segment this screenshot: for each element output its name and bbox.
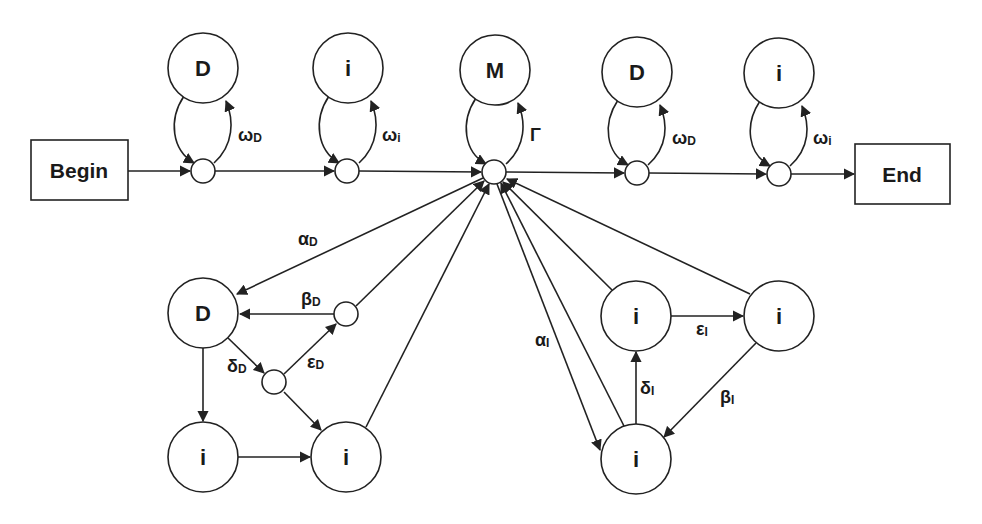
loop-label-i1: ωi (382, 125, 401, 145)
edge-label-delta-D: δD (227, 356, 247, 376)
loop-i1-up (359, 101, 376, 163)
loop-label-D1: ωD (238, 125, 262, 145)
edge-label-epsilon-I: εI (696, 319, 708, 339)
loop-i2-down (750, 101, 770, 166)
state-D2-label: D (629, 60, 645, 85)
edge-Ia-to-jM (503, 182, 612, 290)
edge-label-alpha-I: αI (535, 330, 549, 350)
state-i2-label: i (776, 61, 782, 86)
loop-i1-down (319, 96, 339, 163)
loop-D2-down (608, 100, 628, 165)
begin-label: Begin (50, 159, 108, 182)
junction-1 (191, 159, 215, 183)
loop-label-i2: ωi (813, 128, 832, 148)
edge-jbeta-to-jM (356, 181, 484, 306)
loop-M-up (506, 103, 523, 164)
edge-j2-to-jM (359, 171, 481, 172)
junction-2 (335, 159, 359, 183)
junction-delta (262, 370, 286, 394)
loop-D2-up (648, 105, 665, 165)
loop-D1-down (174, 96, 194, 163)
edge-jM-to-Ic-alpha (497, 184, 600, 450)
edge-Ib-to-Ic-beta (664, 343, 756, 437)
loop-M-down (466, 98, 486, 164)
state-DD-label: D (195, 301, 211, 326)
edge-label-beta-I: βI (720, 387, 734, 407)
loop-label-D2: ωD (672, 128, 696, 148)
junction-5 (767, 162, 791, 186)
edge-label-alpha-D: αD (298, 229, 318, 249)
diagram-canvas: Begin End D i M D i ωD ωi Γ ωD ωi D i i … (0, 0, 982, 524)
loop-label-M: Γ (530, 125, 541, 145)
state-Ic-label: i (633, 447, 639, 472)
state-D1-label: D (195, 56, 211, 81)
edge-Ib-to-jM (507, 179, 750, 294)
state-Di1-label: i (200, 445, 206, 470)
edge-j4-to-j5 (649, 173, 766, 174)
edge-label-beta-D: βD (301, 289, 321, 309)
edge-label-delta-I: δI (640, 378, 654, 398)
junction-beta (334, 302, 358, 326)
junction-4 (625, 161, 649, 185)
edge-Di2-to-jM (366, 184, 489, 427)
edge-jM-to-DD-alpha (237, 178, 483, 294)
edge-label-epsilon-D: εD (307, 352, 325, 372)
loop-i2-up (790, 106, 807, 166)
state-Di2-label: i (343, 445, 349, 470)
end-label: End (882, 163, 922, 186)
state-Ib-label: i (776, 304, 782, 329)
junction-M (482, 160, 506, 184)
state-i1-label: i (345, 56, 351, 81)
state-Ia-label: i (633, 304, 639, 329)
state-M-label: M (486, 58, 504, 83)
loop-D1-up (214, 101, 231, 163)
edge-jM-to-j4 (506, 172, 624, 173)
edge-jdelta-to-Di2 (284, 392, 321, 430)
